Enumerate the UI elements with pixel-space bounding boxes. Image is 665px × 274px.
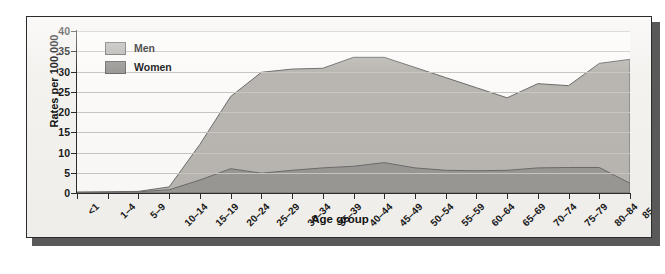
gridline-5 [77,173,630,174]
y-tick-mark-15 [71,132,77,133]
y-tick-mark-25 [71,92,77,93]
x-tick-mark-3 [169,194,170,199]
x-tick-mark-12 [446,194,447,199]
x-tick-mark-5 [231,194,232,199]
legend-swatch-men [105,42,126,55]
y-tick-mark-10 [71,153,77,154]
y-tick-mark-0 [71,193,77,194]
x-tick-mark-11 [415,194,416,199]
y-tick-mark-30 [71,72,77,73]
legend-item-women[interactable]: Women [105,61,172,74]
x-tick-mark-9 [354,194,355,199]
legend-label-men: Men [134,43,155,54]
x-tick-mark-1 [108,194,109,199]
y-tick-label-25: 25 [30,87,70,97]
y-tick-label-15: 15 [30,127,70,137]
x-tick-mark-14 [507,194,508,199]
y-tick-label-20: 20 [30,107,70,117]
y-tick-mark-5 [71,173,77,174]
y-tick-mark-35 [71,51,77,52]
gridline-20 [77,112,630,113]
x-tick-mark-4 [200,194,201,199]
y-axis-tick-labels: 0510152025303540 [27,17,70,217]
x-tick-mark-17 [599,194,600,199]
x-tick-mark-13 [476,194,477,199]
x-tick-mark-6 [261,194,262,199]
y-tick-label-40: 40 [30,26,70,36]
x-axis-title: Age group [27,213,652,225]
legend-swatch-women [105,61,126,74]
x-tick-mark-10 [384,194,385,199]
gridline-10 [77,153,630,154]
gridline-40 [77,31,630,32]
gridline-25 [77,92,630,93]
y-tick-label-0: 0 [30,188,70,198]
y-tick-label-5: 5 [30,168,70,178]
x-tick-mark-7 [292,194,293,199]
x-tick-mark-0 [77,194,78,199]
x-tick-mark-8 [323,194,324,199]
figure-root: Rates per 100,000 0510152025303540 <11–4… [0,0,665,274]
y-tick-label-30: 30 [30,67,70,77]
legend-item-men[interactable]: Men [105,42,172,55]
gridline-15 [77,132,630,133]
legend: MenWomen [105,42,172,74]
y-tick-label-35: 35 [30,46,70,56]
y-tick-mark-20 [71,112,77,113]
x-tick-mark-18 [630,194,631,199]
x-tick-mark-15 [538,194,539,199]
y-tick-label-10: 10 [30,148,70,158]
x-tick-mark-2 [138,194,139,199]
legend-label-women: Women [134,62,172,73]
figure-frame: Rates per 100,000 0510152025303540 <11–4… [26,16,652,238]
y-tick-mark-40 [71,31,77,32]
x-tick-mark-16 [569,194,570,199]
